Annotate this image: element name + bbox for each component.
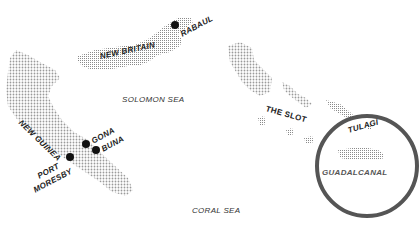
port-moresby-marker[interactable] <box>66 153 74 161</box>
bougainville-landmass <box>228 42 272 96</box>
small-island <box>304 136 314 144</box>
label-coral-sea: CORAL SEA <box>192 206 240 215</box>
buna-marker[interactable] <box>92 146 100 154</box>
small-island <box>258 116 266 126</box>
guadalcanal-landmass <box>338 148 384 160</box>
santa-isabel-landmass <box>282 82 312 108</box>
map: NEW BRITAIN RABAUL NEW GUINEA GONA BUNA … <box>0 0 420 230</box>
gona-marker[interactable] <box>82 140 90 148</box>
small-island <box>286 128 294 136</box>
map-graphics <box>0 0 420 230</box>
label-solomon-sea: SOLOMON SEA <box>122 95 184 104</box>
guadalcanal-highlight-circle <box>317 116 417 216</box>
label-guadalcanal: GUADALCANAL <box>322 168 388 177</box>
rabaul-marker[interactable] <box>171 21 179 29</box>
